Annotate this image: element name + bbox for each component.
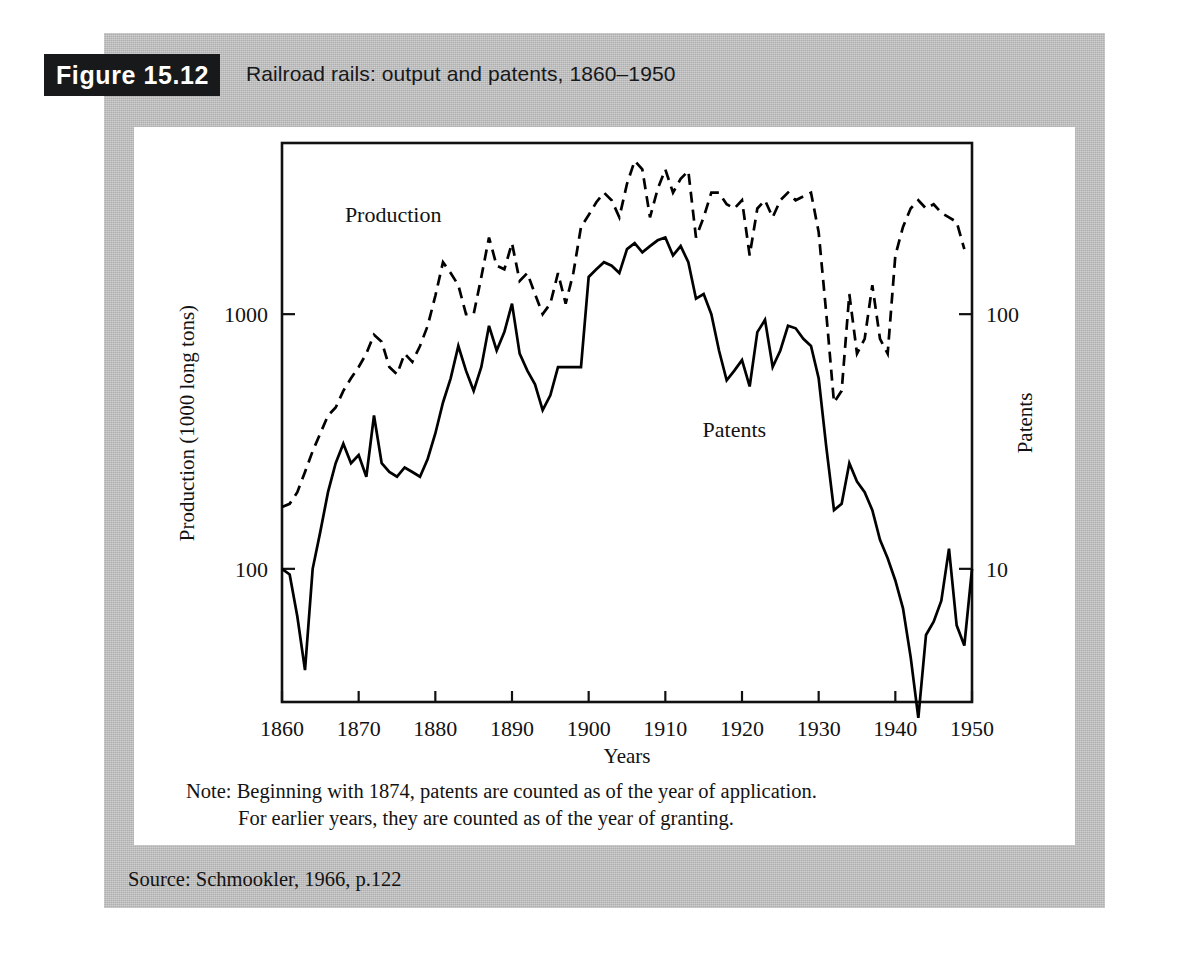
figure-note: Note: Beginning with 1874, patents are c… xyxy=(186,778,817,832)
x-tick-label: 1950 xyxy=(950,716,994,741)
y2-tick-label: 10 xyxy=(986,557,1008,582)
left-white-margin xyxy=(0,33,104,908)
y-axis-tick-labels: 1001000 xyxy=(224,302,268,582)
x-tick-label: 1890 xyxy=(490,716,534,741)
y2-axis-ticks xyxy=(959,314,972,569)
chart-series xyxy=(282,161,972,718)
x-tick-label: 1920 xyxy=(720,716,764,741)
figure-page: Figure 15.12 Railroad rails: output and … xyxy=(0,0,1189,972)
y-tick-label: 1000 xyxy=(224,302,268,327)
y-axis-ticks xyxy=(282,314,295,569)
series-label-production: Production xyxy=(345,202,442,227)
series-label-patents: Patents xyxy=(703,417,767,442)
x-tick-label: 1880 xyxy=(413,716,457,741)
chart-panel: 1860187018801890190019101920193019401950… xyxy=(134,127,1075,845)
y-tick-label: 100 xyxy=(235,557,268,582)
chart-container: 1860187018801890190019101920193019401950… xyxy=(134,127,1075,845)
note-line-1: Note: Beginning with 1874, patents are c… xyxy=(186,778,817,805)
x-axis-tick-labels: 1860187018801890190019101920193019401950 xyxy=(260,716,994,741)
note-line-2: For earlier years, they are counted as o… xyxy=(186,805,817,832)
x-tick-label: 1930 xyxy=(797,716,841,741)
x-tick-label: 1870 xyxy=(337,716,381,741)
figure-source: Source: Schmookler, 1966, p.122 xyxy=(128,868,402,891)
figure-number-box: Figure 15.12 xyxy=(44,54,220,96)
figure-title: Railroad rails: output and patents, 1860… xyxy=(246,62,675,86)
y2-tick-label: 100 xyxy=(986,302,1019,327)
y-axis-title: Production (1000 long tons) xyxy=(175,305,199,541)
series-line-patents xyxy=(282,238,972,718)
x-tick-label: 1910 xyxy=(643,716,687,741)
chart-annotations: ProductionPatents xyxy=(345,202,766,442)
x-axis-title: Years xyxy=(604,744,651,768)
figure-number-label: Figure 15.12 xyxy=(56,61,209,90)
x-tick-label: 1860 xyxy=(260,716,304,741)
x-tick-label: 1940 xyxy=(873,716,917,741)
y2-axis-title: Patents xyxy=(1013,393,1037,454)
chart-svg: 1860187018801890190019101920193019401950… xyxy=(134,127,1075,845)
x-tick-label: 1900 xyxy=(567,716,611,741)
x-axis-ticks xyxy=(282,691,972,702)
